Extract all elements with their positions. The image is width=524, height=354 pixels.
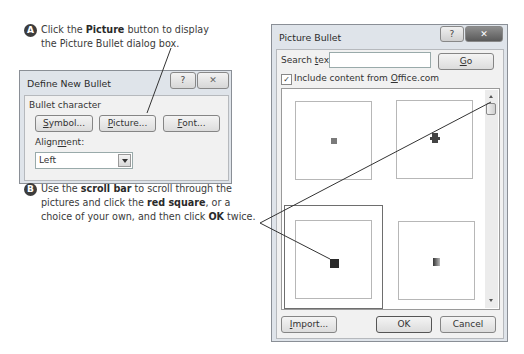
callout-text: Use the: [41, 183, 81, 194]
search-text-label: Search text:: [281, 55, 336, 65]
picture-thumbnail-selected[interactable]: [284, 205, 383, 309]
callout-a-text: Click the Picture button to display the …: [41, 23, 209, 51]
bullet-character-label: Bullet character: [29, 100, 101, 110]
vertical-scrollbar[interactable]: [485, 90, 498, 308]
cancel-button[interactable]: Cancel: [440, 316, 496, 333]
callout-text: choice of your own, and then click: [41, 211, 208, 222]
picture-list[interactable]: [281, 88, 500, 310]
search-text-input[interactable]: [329, 52, 431, 68]
define-new-bullet-dialog: Define New Bullet ? ✕ Bullet character S…: [19, 70, 232, 184]
picture-button[interactable]: Picture...: [99, 115, 156, 132]
picture-thumbnail[interactable]: [295, 101, 372, 180]
close-button[interactable]: ✕: [197, 72, 229, 89]
callout-text: , or a: [206, 197, 231, 208]
callout-text: twice.: [224, 211, 256, 222]
help-button[interactable]: ?: [440, 26, 464, 42]
help-button[interactable]: ?: [170, 72, 196, 89]
close-button[interactable]: ✕: [465, 26, 503, 42]
help-icon: ?: [450, 29, 455, 39]
go-button[interactable]: Go: [438, 53, 494, 70]
btn-label: ont...: [182, 118, 205, 128]
picture-thumbnail[interactable]: [396, 100, 473, 179]
btn-label: ymbol...: [49, 118, 85, 128]
callout-text: button to display: [124, 24, 209, 35]
label-mnemonic: O: [391, 73, 398, 83]
ok-button[interactable]: OK: [376, 316, 432, 333]
callout-b-badge: B: [24, 183, 37, 196]
cross-bullet-icon-bar: [430, 137, 440, 140]
scroll-up-icon[interactable]: [489, 95, 493, 98]
help-icon: ?: [181, 75, 186, 85]
callout-text: the Picture Bullet dialog box.: [41, 37, 209, 51]
red-square-icon: [330, 259, 339, 268]
callout-bold: OK: [208, 211, 224, 222]
btn-label: o: [467, 56, 473, 66]
callout-bold: Picture: [86, 24, 125, 35]
chevron-down-icon: [122, 159, 128, 163]
close-icon: ✕: [209, 75, 217, 85]
picture-thumbnail[interactable]: [398, 221, 475, 300]
callout-bold: scroll bar: [81, 183, 132, 194]
scroll-down-icon[interactable]: [489, 299, 493, 302]
picture-bullet-dialog: Picture Bullet ? ✕ Search text: Go ✓ Inc…: [271, 24, 508, 342]
symbol-button[interactable]: Symbol...: [35, 115, 93, 132]
callout-a-badge: A: [24, 24, 37, 37]
label-text: ent:: [66, 137, 84, 147]
callout-b-text: Use the scroll bar to scroll through the…: [41, 182, 256, 224]
alignment-label: Alignment:: [35, 137, 84, 147]
callout-bold: red square: [147, 197, 206, 208]
btn-label: icture...: [113, 118, 147, 128]
callout-text: pictures and click the: [41, 197, 147, 208]
callout-text: Click the: [41, 24, 86, 35]
font-button[interactable]: Font...: [163, 115, 220, 132]
callout-text: to scroll through the: [132, 183, 232, 194]
btn-label: mport...: [292, 319, 328, 329]
label-text: Search: [281, 55, 315, 65]
include-office-checkbox[interactable]: ✓: [281, 74, 292, 85]
btn-mnemonic: G: [460, 56, 467, 66]
alignment-select[interactable]: Left: [35, 152, 133, 169]
small-gray-square-icon: [331, 138, 337, 144]
label-text: Include content from: [294, 73, 391, 83]
import-button[interactable]: Import...: [281, 316, 337, 333]
picture-thumbnail[interactable]: [295, 220, 372, 299]
gradient-square-icon: [433, 258, 440, 266]
label-text: Align: [35, 137, 58, 147]
dropdown-button[interactable]: [118, 154, 131, 167]
alignment-value: Left: [39, 155, 56, 165]
dialog-body: Search text: Go ✓ Include content from O…: [276, 49, 504, 339]
label-text: ffice.com: [398, 73, 439, 83]
scroll-thumb[interactable]: [486, 103, 496, 115]
include-office-label: Include content from Office.com: [294, 73, 439, 83]
dialog-title: Define New Bullet: [27, 78, 111, 89]
dialog-title: Picture Bullet: [279, 32, 341, 43]
dialog-body: Bullet character Symbol... Picture... Fo…: [24, 95, 229, 181]
close-icon: ✕: [480, 29, 488, 39]
